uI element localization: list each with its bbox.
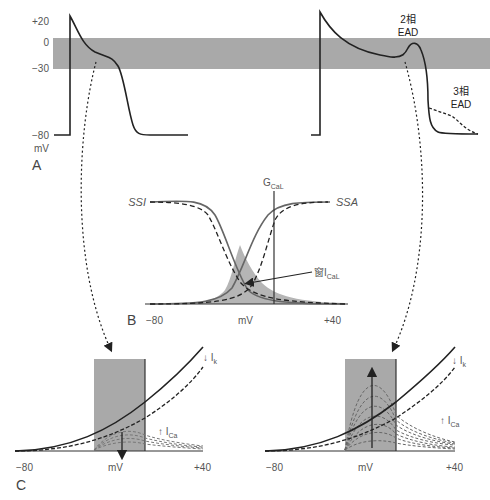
panel-b: GCaL SSI SSA 窗ICaL B −80 mV +40 xyxy=(127,177,358,328)
window-region-left xyxy=(94,359,145,451)
c-right-x-unit: mV xyxy=(358,462,373,473)
b-x-unit: mV xyxy=(238,315,253,326)
c-left-x-tick-minus80: −80 xyxy=(16,462,33,473)
panel-a-label: A xyxy=(32,157,42,173)
panel-c-label: C xyxy=(16,477,26,493)
c-left-x-tick-plus40: +40 xyxy=(194,462,211,473)
ik-label-left: ↓ Ik xyxy=(203,352,218,365)
phase3-ead-label-line1: 3相 xyxy=(453,85,469,97)
c-right-x-tick-plus40: +40 xyxy=(446,462,463,473)
gcal-label: GCaL xyxy=(263,177,284,190)
normal-action-potential xyxy=(54,16,188,135)
ssa-label: SSA xyxy=(336,196,358,208)
y-unit-mv: mV xyxy=(34,143,49,154)
panel-a: +20 0 −30 −80 mV A 2相 EAD 3相 EAD xyxy=(32,12,490,173)
b-x-tick-minus80: −80 xyxy=(146,315,163,326)
phase3-ead-label-line2: EAD xyxy=(451,99,472,110)
y-tick-0: 0 xyxy=(43,37,49,48)
ead-mechanism-diagram: +20 0 −30 −80 mV A 2相 EAD 3相 EAD xyxy=(0,0,490,500)
connector-arrow-right xyxy=(394,62,423,348)
panel-b-label: B xyxy=(127,312,136,328)
ica-label-right: ↑ ICa xyxy=(440,415,460,428)
y-tick-minus30: −30 xyxy=(32,63,49,74)
c-left-x-unit: mV xyxy=(108,462,123,473)
y-tick-plus20: +20 xyxy=(32,16,49,27)
c-right-x-tick-minus80: −80 xyxy=(266,462,283,473)
connector-arrow-left xyxy=(81,62,110,348)
phase2-ead-label-line1: 2相 xyxy=(400,13,416,25)
phase2-ead-label-line2: EAD xyxy=(398,27,419,38)
ssi-label: SSI xyxy=(128,196,146,208)
panel-c-left: ↓ Ik ↑ ICa −80 mV +40 C xyxy=(15,347,218,493)
window-ical-label: 窗ICaL xyxy=(314,266,340,280)
ica-label-left: ↑ ICa xyxy=(158,426,178,439)
ik-label-right: ↓ Ik xyxy=(452,355,467,368)
b-x-tick-plus40: +40 xyxy=(324,315,341,326)
window-current-pointer xyxy=(249,272,312,283)
panel-c-right: ↓ Ik ↑ ICa −80 mV +40 xyxy=(265,347,467,473)
y-tick-minus80: −80 xyxy=(32,130,49,141)
